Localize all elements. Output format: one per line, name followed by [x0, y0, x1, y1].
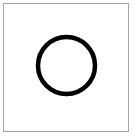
circle-outline: [38, 37, 95, 94]
circle-icon: [0, 0, 136, 136]
